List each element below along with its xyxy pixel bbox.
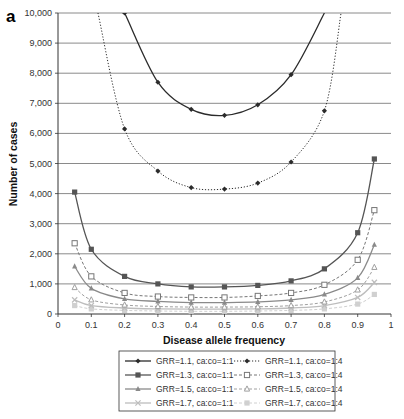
data-point-marker [222,284,227,289]
data-point-marker [372,156,377,161]
y-tick-label: 2,000 [29,249,52,259]
x-tick-label: 0.2 [118,320,131,330]
data-point-marker [189,107,194,112]
data-point-marker [189,185,194,190]
data-point-marker [89,274,94,279]
y-tick-label: 7,000 [29,98,52,108]
data-point-marker [89,285,94,290]
data-point-marker [122,126,127,131]
x-tick-label: 0.7 [285,320,298,330]
data-point-marker [135,372,140,377]
data-point-marker [355,301,360,306]
data-point-marker [355,257,360,262]
legend-label: GRR=1.5, ca:co=1:1 [156,384,234,394]
data-point-marker [255,293,260,298]
data-point-marker [89,247,94,252]
data-point-marker [372,208,377,213]
data-point-marker [289,290,294,295]
y-tick-label: 1,000 [29,279,52,289]
data-point-marker [372,264,377,269]
legend-label: GRR=1.3, ca:co=1:1 [156,370,234,380]
data-point-marker [355,287,360,292]
gridlines [58,13,391,284]
data-point-marker [372,242,377,247]
data-point-marker [122,290,127,295]
data-point-marker [72,303,77,308]
data-point-marker [72,189,77,194]
data-point-marker [289,302,294,307]
legend-label: GRR=1.7, ca:co=1:4 [265,398,343,408]
data-point-marker [255,180,260,185]
data-point-marker [72,297,77,302]
data-point-marker [355,295,360,300]
y-tick-label: 3,000 [29,219,52,229]
data-point-marker [72,263,77,268]
x-axis-title: Disease allele frequency [163,334,285,346]
data-point-marker [322,299,327,304]
data-point-marker [155,303,160,308]
y-tick-label: 10,000 [24,8,52,18]
data-series [72,8,377,314]
series-line [122,8,325,116]
data-point-marker [322,282,327,287]
data-point-marker [222,304,227,309]
data-point-marker [189,304,194,309]
x-tick-label: 0.5 [218,320,231,330]
x-tick-label: 0.8 [318,320,331,330]
data-point-marker [255,283,260,288]
data-point-marker [244,400,249,405]
legend-label: GRR=1.1, ca:co=1:4 [265,356,343,366]
panel-label: a [6,7,16,26]
series-1 [98,13,341,192]
data-point-marker [222,186,227,191]
x-tick-label: 0.4 [185,320,198,330]
data-point-marker [89,297,94,302]
y-tick-label: 9,000 [29,38,52,48]
data-point-marker [72,284,77,289]
data-point-marker [122,302,127,307]
y-tick-label: 4,000 [29,189,52,199]
series-2 [72,156,377,289]
legend-label: GRR=1.1, ca:co=1:1 [156,356,234,366]
y-tick-label: 8,000 [29,68,52,78]
y-tick-label: 0 [47,309,52,319]
y-axis-ticks: 01,0002,0003,0004,0005,0006,0007,0008,00… [24,8,58,319]
data-point-marker [355,230,360,235]
data-point-marker [222,295,227,300]
legend-label: GRR=1.3, ca:co=1:4 [265,370,343,380]
x-tick-label: 0 [55,320,60,330]
series-line [75,159,375,287]
data-point-marker [222,113,227,118]
data-point-marker [322,108,327,113]
legend-label: GRR=1.7, ca:co=1:1 [156,398,234,408]
legend: GRR=1.1, ca:co=1:1GRR=1.1, ca:co=1:4GRR=… [119,351,343,411]
data-point-marker [255,304,260,309]
x-tick-label: 0.6 [252,320,265,330]
data-point-marker [155,294,160,299]
x-tick-label: 0.1 [85,320,98,330]
y-axis-title: Number of cases [7,122,19,207]
y-tick-label: 5,000 [29,159,52,169]
data-point-marker [72,241,77,246]
data-point-marker [289,278,294,283]
data-point-marker [155,281,160,286]
y-tick-label: 6,000 [29,128,52,138]
line-chart: a 01,0002,0003,0004,0005,0006,0007,0008,… [0,0,404,419]
x-tick-label: 1 [388,320,393,330]
x-axis-ticks: 00.10.20.30.40.50.60.70.80.91 [55,314,393,330]
series-0 [122,8,325,118]
data-point-marker [122,10,127,15]
legend-label: GRR=1.5, ca:co=1:4 [265,384,343,394]
data-point-marker [244,372,249,377]
data-point-marker [322,266,327,271]
x-tick-label: 0.9 [351,320,364,330]
data-point-marker [189,284,194,289]
data-point-marker [372,292,377,297]
data-point-marker [122,274,127,279]
data-point-marker [189,295,194,300]
x-tick-label: 0.3 [152,320,165,330]
